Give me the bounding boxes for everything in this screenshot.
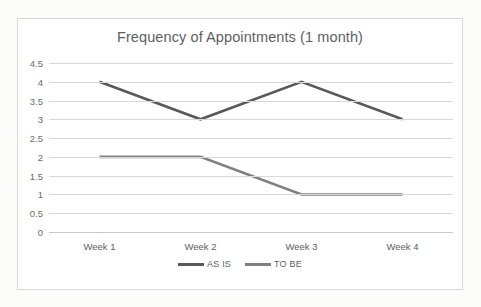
gridline: [49, 63, 453, 64]
y-axis-tick-label: 0.5: [30, 208, 43, 219]
gridline: [49, 194, 453, 195]
chart-title: Frequency of Appointments (1 month): [18, 29, 462, 45]
legend-swatch: [245, 263, 271, 266]
x-axis-tick-label: Week 3: [285, 241, 317, 252]
x-axis-tick-label: Week 1: [83, 241, 115, 252]
y-axis-tick-label: 1: [38, 189, 43, 200]
gridline: [49, 176, 453, 177]
y-axis-tick-label: 0: [38, 227, 43, 238]
legend-label: AS IS: [207, 259, 231, 269]
y-axis-tick-label: 1.5: [30, 170, 43, 181]
gridline: [49, 232, 453, 233]
y-axis-tick-label: 3: [38, 114, 43, 125]
series-lines: [49, 63, 453, 232]
legend-swatch: [178, 263, 204, 266]
y-axis-tick-label: 2: [38, 151, 43, 162]
chart-legend: AS ISTO BE: [18, 259, 462, 269]
x-axis-tick-label: Week 2: [184, 241, 216, 252]
gridline: [49, 101, 453, 102]
gridline: [49, 119, 453, 120]
plot-area: 4.543.532.521.510.50Week 1Week 2Week 3We…: [49, 63, 453, 232]
legend-item-as-is[interactable]: AS IS: [178, 259, 231, 269]
x-axis-tick-label: Week 4: [386, 241, 418, 252]
gridline: [49, 138, 453, 139]
chart-frame: Frequency of Appointments (1 month) 4.54…: [17, 18, 463, 290]
y-axis-tick-label: 4: [38, 76, 43, 87]
legend-item-to-be[interactable]: TO BE: [245, 259, 302, 269]
legend-label: TO BE: [274, 259, 302, 269]
y-axis-tick-label: 4.5: [30, 58, 43, 69]
gridline: [49, 213, 453, 214]
gridline: [49, 82, 453, 83]
scanned-page-background: Frequency of Appointments (1 month) 4.54…: [0, 0, 481, 307]
gridline: [49, 157, 453, 158]
y-axis-tick-label: 3.5: [30, 95, 43, 106]
y-axis-tick-label: 2.5: [30, 133, 43, 144]
